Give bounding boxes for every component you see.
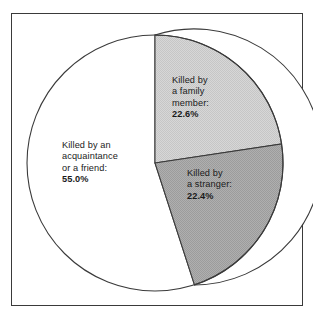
pie-label-acquaintance-value: 55.0% (62, 174, 118, 185)
pie-label-family-member-line3: member: (172, 98, 209, 109)
pie-label-family-member: Killed by a family member: 22.6% (172, 75, 209, 121)
pie-label-acquaintance-line1: Killed by an (62, 140, 118, 151)
pie-label-acquaintance-or-friend: Killed by an acquaintance or a friend: 5… (62, 140, 118, 186)
pie-label-family-member-value: 22.6% (172, 109, 209, 120)
pie-label-stranger-line1: Killed by (187, 168, 232, 179)
pie-label-stranger-value: 22.4% (187, 191, 232, 202)
pie-label-stranger: Killed by a stranger: 22.4% (187, 168, 232, 202)
pie-label-acquaintance-line3: or a friend: (62, 163, 118, 174)
pie-label-family-member-line1: Killed by (172, 75, 209, 86)
pie-chart-figure: Killed by a family member: 22.6% Killed … (0, 0, 313, 319)
pie-label-family-member-line2: a family (172, 86, 209, 97)
pie-label-acquaintance-line2: acquaintance (62, 151, 118, 162)
pie-label-stranger-line2: a stranger: (187, 179, 232, 190)
pie-chart-graphic (0, 0, 313, 319)
